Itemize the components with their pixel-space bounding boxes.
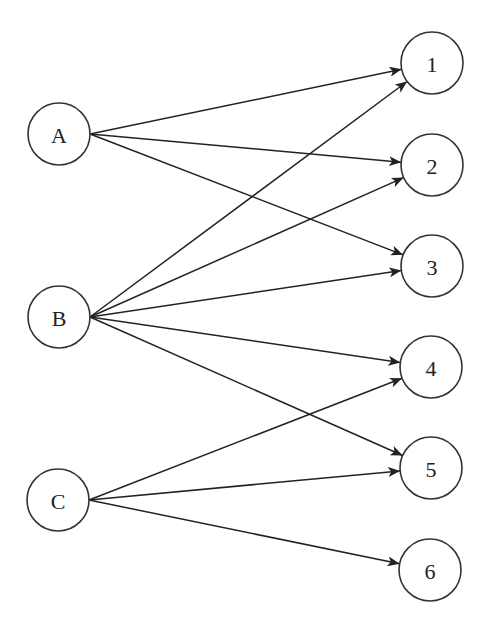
- node-5: 5: [400, 437, 462, 499]
- node-label-2: 2: [427, 154, 438, 179]
- node-2: 2: [401, 134, 463, 196]
- node-label-4: 4: [426, 356, 437, 381]
- node-3: 3: [401, 235, 463, 297]
- edges-group: [89, 69, 407, 563]
- edge-B-to-2: [90, 178, 404, 317]
- node-C: C: [27, 469, 89, 531]
- node-label-3: 3: [427, 255, 438, 280]
- node-label-B: B: [52, 306, 67, 331]
- node-label-5: 5: [426, 457, 437, 482]
- edge-A-to-1: [90, 69, 402, 134]
- edge-A-to-3: [90, 134, 403, 255]
- graph-canvas: 123456ABC: [0, 0, 493, 635]
- edge-A-to-2: [90, 134, 401, 162]
- node-1: 1: [401, 32, 463, 94]
- node-label-1: 1: [427, 52, 438, 77]
- edge-C-to-4: [89, 378, 402, 500]
- bipartite-graph: 123456ABC: [0, 0, 493, 635]
- edge-B-to-1: [90, 81, 407, 317]
- node-label-6: 6: [425, 559, 436, 584]
- node-label-C: C: [51, 489, 66, 514]
- node-label-A: A: [51, 123, 67, 148]
- node-4: 4: [400, 336, 462, 398]
- node-6: 6: [399, 539, 461, 601]
- edge-C-to-6: [89, 500, 400, 564]
- edge-C-to-5: [89, 471, 400, 500]
- node-B: B: [28, 286, 90, 348]
- node-A: A: [28, 103, 90, 165]
- edge-B-to-4: [90, 317, 400, 363]
- edge-B-to-3: [90, 271, 401, 317]
- edge-B-to-5: [90, 317, 403, 455]
